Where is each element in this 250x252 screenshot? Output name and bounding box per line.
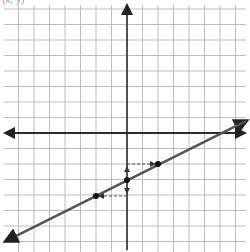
point-y-intercept [124, 177, 130, 183]
grid [4, 5, 246, 252]
point-right [155, 161, 161, 167]
point-left [93, 193, 99, 199]
coordinate-plane [0, 0, 250, 252]
